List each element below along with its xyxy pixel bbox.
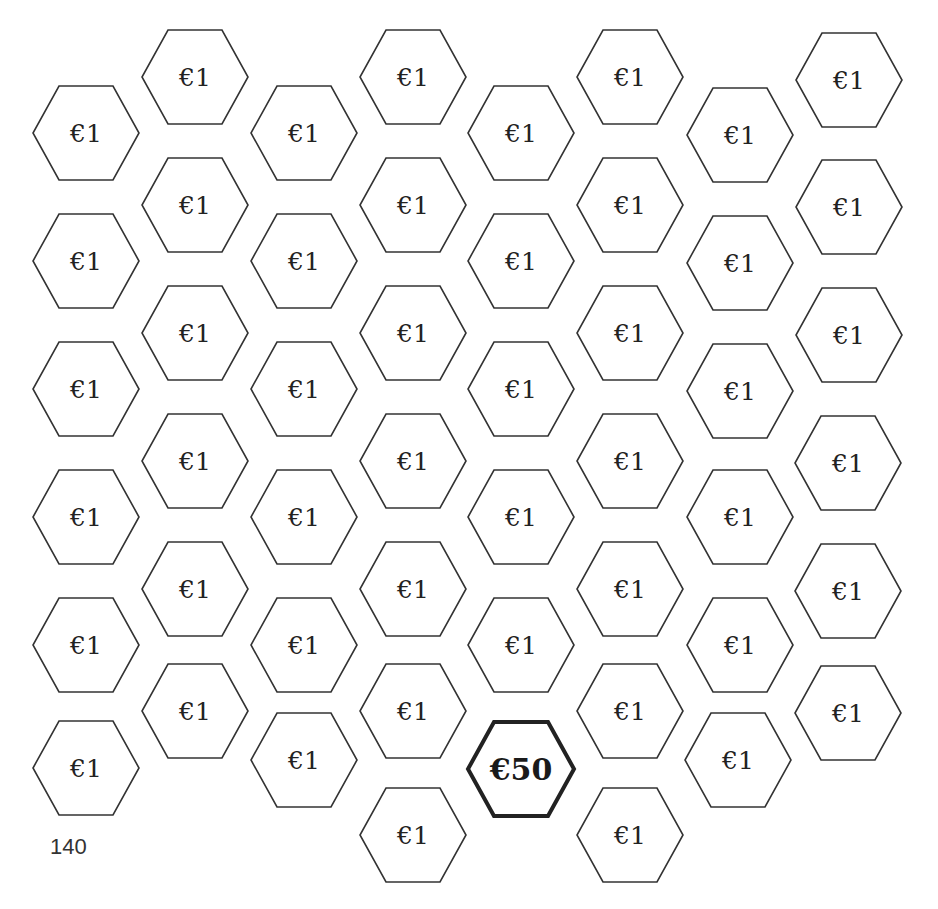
tile-value-label: €1 — [794, 665, 902, 761]
hex-tile-euro-1: €1 — [467, 597, 575, 693]
tile-value-label: €1 — [467, 341, 575, 437]
tile-value-label: €1 — [467, 213, 575, 309]
tile-value-label: €1 — [576, 541, 684, 637]
hex-tile-euro-1: €1 — [32, 720, 140, 816]
hex-tile-euro-1: €1 — [686, 87, 794, 183]
hex-tile-euro-1: €1 — [141, 541, 249, 637]
tile-value-label: €1 — [250, 597, 358, 693]
tile-value-label: €1 — [141, 157, 249, 253]
tile-value-label: €1 — [359, 413, 467, 509]
tile-value-label: €1 — [795, 287, 903, 383]
hex-tile-euro-1: €1 — [250, 341, 358, 437]
hex-tile-euro-1: €1 — [141, 285, 249, 381]
tile-value-label: €1 — [576, 29, 684, 125]
hex-tile-euro-1: €1 — [359, 413, 467, 509]
tile-value-label: €1 — [32, 597, 140, 693]
hex-tile-euro-1: €1 — [467, 469, 575, 565]
tile-value-label: €1 — [141, 413, 249, 509]
tile-value-label: €1 — [467, 597, 575, 693]
hex-tile-euro-1: €1 — [576, 541, 684, 637]
tile-value-label: €1 — [359, 663, 467, 759]
hex-tile-euro-1: €1 — [32, 597, 140, 693]
hex-tile-euro-1: €1 — [467, 85, 575, 181]
tile-value-label: €1 — [32, 720, 140, 816]
tile-value-label: €1 — [32, 213, 140, 309]
hex-tile-euro-1: €1 — [250, 469, 358, 565]
hex-tile-euro-1: €1 — [32, 341, 140, 437]
hex-tile-euro-1: €1 — [795, 287, 903, 383]
hex-tile-euro-1: €1 — [250, 712, 358, 808]
hex-tile-euro-50: €50 — [467, 721, 575, 817]
hex-tile-euro-1: €1 — [576, 787, 684, 883]
hex-tile-euro-1: €1 — [359, 541, 467, 637]
hex-tile-euro-1: €1 — [795, 32, 903, 128]
hex-tile-euro-1: €1 — [141, 29, 249, 125]
hex-tile-euro-1: €1 — [359, 29, 467, 125]
tile-value-label: €1 — [686, 343, 794, 439]
page-number: 140 — [50, 834, 87, 860]
tile-value-label: €1 — [32, 85, 140, 181]
hex-tile-euro-1: €1 — [250, 213, 358, 309]
tile-value-label: €1 — [359, 157, 467, 253]
hex-tile-euro-1: €1 — [686, 469, 794, 565]
tile-value-label: €1 — [794, 543, 902, 639]
tile-value-label: €1 — [359, 541, 467, 637]
tile-value-label: €1 — [359, 285, 467, 381]
tile-value-label: €1 — [576, 285, 684, 381]
hex-tile-euro-1: €1 — [141, 157, 249, 253]
tile-value-label: €1 — [795, 32, 903, 128]
tile-value-label: €1 — [576, 663, 684, 759]
hex-tile-euro-1: €1 — [576, 157, 684, 253]
hex-tile-board: €1€1€1€1€1€1€1€1€1€1€1€1€1€1€1€1€1€1€1€1… — [0, 0, 938, 909]
hex-tile-euro-1: €1 — [32, 213, 140, 309]
tile-value-label: €1 — [576, 413, 684, 509]
tile-value-label: €1 — [795, 159, 903, 255]
hex-tile-euro-1: €1 — [686, 597, 794, 693]
hex-tile-euro-1: €1 — [576, 663, 684, 759]
hex-tile-euro-1: €1 — [794, 665, 902, 761]
hex-tile-euro-1: €1 — [359, 787, 467, 883]
hex-tile-euro-1: €1 — [684, 712, 792, 808]
tile-value-label: €1 — [359, 29, 467, 125]
hex-tile-euro-1: €1 — [576, 29, 684, 125]
hex-tile-euro-1: €1 — [250, 597, 358, 693]
hex-tile-euro-1: €1 — [467, 341, 575, 437]
hex-tile-euro-1: €1 — [467, 213, 575, 309]
hex-tile-euro-1: €1 — [794, 415, 902, 511]
tile-value-label: €1 — [686, 597, 794, 693]
tile-value-label: €1 — [684, 712, 792, 808]
hex-tile-euro-1: €1 — [359, 663, 467, 759]
hex-tile-euro-1: €1 — [141, 663, 249, 759]
tile-value-label: €1 — [32, 341, 140, 437]
tile-value-label: €1 — [141, 663, 249, 759]
tile-value-label: €1 — [141, 285, 249, 381]
hex-tile-euro-1: €1 — [576, 285, 684, 381]
tile-value-label: €1 — [250, 712, 358, 808]
tile-value-label: €1 — [686, 469, 794, 565]
hex-tile-euro-1: €1 — [32, 469, 140, 565]
tile-value-label: €1 — [359, 787, 467, 883]
hex-tile-euro-1: €1 — [359, 157, 467, 253]
hex-tile-euro-1: €1 — [359, 285, 467, 381]
tile-value-label: €1 — [250, 469, 358, 565]
hex-tile-euro-1: €1 — [32, 85, 140, 181]
hex-tile-euro-1: €1 — [686, 215, 794, 311]
tile-value-label: €1 — [32, 469, 140, 565]
tile-value-label: €1 — [576, 157, 684, 253]
tile-value-label: €1 — [686, 87, 794, 183]
hex-tile-euro-1: €1 — [141, 413, 249, 509]
tile-value-label: €1 — [141, 29, 249, 125]
tile-value-label: €1 — [141, 541, 249, 637]
tile-value-label: €1 — [794, 415, 902, 511]
tile-value-label: €1 — [250, 213, 358, 309]
tile-value-label: €1 — [250, 341, 358, 437]
tile-value-label: €1 — [576, 787, 684, 883]
tile-value-label: €1 — [467, 469, 575, 565]
hex-tile-euro-1: €1 — [686, 343, 794, 439]
tile-value-label: €1 — [467, 85, 575, 181]
tile-value-label: €1 — [686, 215, 794, 311]
tile-value-label: €1 — [250, 85, 358, 181]
hex-tile-euro-1: €1 — [576, 413, 684, 509]
hex-tile-euro-1: €1 — [795, 159, 903, 255]
hex-tile-euro-1: €1 — [794, 543, 902, 639]
